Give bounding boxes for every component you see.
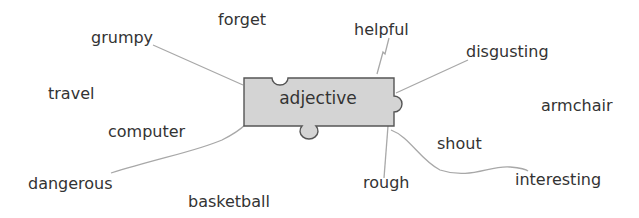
word-interesting[interactable]: interesting <box>515 172 601 188</box>
line-disgusting <box>396 60 468 93</box>
word-grumpy[interactable]: grumpy <box>91 30 153 46</box>
word-computer[interactable]: computer <box>108 124 185 140</box>
word-shout[interactable]: shout <box>437 136 482 152</box>
word-forget[interactable]: forget <box>218 12 266 28</box>
word-travel[interactable]: travel <box>48 86 94 102</box>
line-rough <box>384 126 388 178</box>
word-disgusting[interactable]: disgusting <box>466 44 549 60</box>
word-helpful[interactable]: helpful <box>354 22 409 38</box>
word-rough[interactable]: rough <box>363 175 409 191</box>
line-helpful <box>377 38 389 74</box>
word-sort-diagram: adjective grumpy forget helpful disgusti… <box>0 0 639 218</box>
line-grumpy <box>153 45 243 85</box>
center-label-adjective: adjective <box>243 90 393 107</box>
word-armchair[interactable]: armchair <box>541 98 612 114</box>
word-basketball[interactable]: basketball <box>188 194 270 210</box>
word-dangerous[interactable]: dangerous <box>28 176 113 192</box>
